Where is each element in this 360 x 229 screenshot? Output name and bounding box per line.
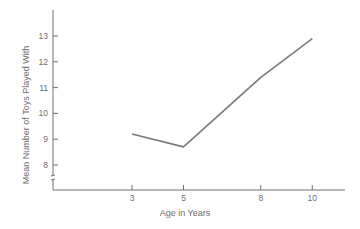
y-axis: 8910111213	[39, 10, 58, 190]
x-axis: 35810	[53, 185, 345, 203]
y-tick-label: 11	[39, 83, 48, 93]
y-tick-label: 9	[43, 134, 48, 144]
series-line	[132, 39, 312, 147]
x-tick-label: 10	[308, 193, 318, 203]
y-tick-label: 10	[39, 108, 49, 118]
x-tick-label: 8	[258, 193, 263, 203]
data-series	[132, 39, 312, 147]
x-axis-label: Age in Years	[160, 208, 211, 218]
line-chart: 8910111213 35810 Mean Number of Toys Pla…	[0, 0, 360, 229]
y-tick-label: 8	[43, 160, 48, 170]
y-axis-label: Mean Number of Toys Played With	[21, 46, 31, 184]
x-tick-label: 5	[181, 193, 186, 203]
axis-break-icon	[51, 175, 55, 180]
x-tick-label: 3	[130, 193, 135, 203]
y-tick-label: 12	[39, 57, 49, 67]
y-tick-label: 13	[39, 31, 49, 41]
